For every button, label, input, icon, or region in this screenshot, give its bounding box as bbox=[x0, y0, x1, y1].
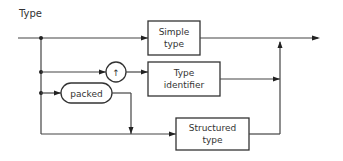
structured-type-line1: Structured bbox=[189, 123, 237, 133]
syntax-diagram: Simple type ↑ Type identifier packed Str… bbox=[0, 0, 343, 161]
right-merge bbox=[278, 41, 283, 134]
simple-type-line1: Simple bbox=[159, 27, 190, 37]
packed-path: packed bbox=[41, 83, 134, 134]
simple-type-node: Simple type bbox=[148, 21, 200, 55]
structured-type-line2: type bbox=[202, 135, 223, 145]
pointer-symbol: ↑ bbox=[112, 68, 120, 78]
packed-label: packed bbox=[70, 89, 102, 99]
exit-arrow bbox=[312, 36, 320, 41]
type-identifier-node: Type identifier bbox=[148, 62, 220, 96]
type-identifier-line2: identifier bbox=[164, 80, 205, 90]
structured-type-node: Structured type bbox=[176, 118, 249, 150]
left-branch bbox=[39, 36, 43, 134]
simple-type-line2: type bbox=[164, 39, 185, 49]
type-identifier-line1: Type bbox=[173, 68, 195, 78]
main-line bbox=[18, 36, 148, 41]
pointer-path: ↑ bbox=[41, 62, 148, 82]
